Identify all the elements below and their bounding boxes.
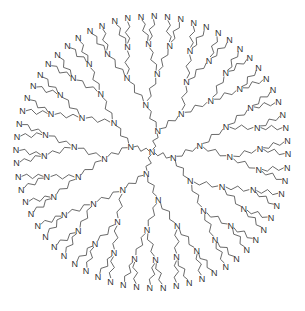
bond-chain	[110, 57, 125, 76]
nitrogen-atom-label: N	[270, 85, 277, 95]
bond-chain	[116, 24, 126, 44]
nitrogen-atom-label: N	[253, 235, 260, 245]
nitrogen-atom-label: N	[190, 18, 197, 28]
bond-chain	[77, 80, 98, 92]
bond-chain	[190, 26, 195, 48]
bond-chain	[24, 178, 44, 188]
nitrogen-atom-label: N	[145, 39, 152, 49]
bond-chain	[48, 218, 62, 234]
bond-chain	[161, 116, 179, 129]
nitrogen-atom-label: N	[206, 56, 213, 66]
bond-chain	[26, 109, 48, 114]
nitrogen-atom-label: N	[186, 278, 193, 288]
nitrogen-atom-label: N	[196, 141, 203, 151]
nitrogen-atom-label: N	[203, 22, 210, 32]
bond-chain	[262, 171, 282, 180]
nitrogen-atom-label: N	[41, 151, 48, 161]
bond-chain	[149, 19, 155, 40]
nitrogen-atom-label: N	[247, 103, 254, 113]
nitrogen-atom-label: N	[83, 266, 90, 276]
bond-chain	[133, 262, 138, 284]
bond-chain	[55, 113, 79, 118]
bond-chain	[22, 125, 42, 134]
nitrogen-atom-label: N	[44, 172, 51, 182]
bond-chain	[260, 116, 280, 126]
nitrogen-atom-label: N	[241, 204, 248, 214]
bond-chain	[263, 149, 284, 155]
bond-chain	[216, 243, 224, 263]
nitrogen-atom-label: N	[207, 96, 214, 106]
bond-chain	[263, 142, 284, 149]
nitrogen-atom-label: N	[16, 119, 23, 129]
bond-chain	[166, 20, 171, 42]
nitrogen-atom-label: N	[97, 89, 104, 99]
nitrogen-atom-label: N	[114, 217, 121, 227]
nitrogen-atom-label: N	[101, 154, 108, 164]
bond-chain	[228, 51, 239, 70]
nitrogen-atom-label: N	[61, 251, 68, 261]
nitrogen-atom-label: N	[15, 172, 22, 182]
nitrogen-atom-label: N	[149, 147, 156, 157]
bond-chain	[80, 207, 92, 228]
nitrogen-atom-label: N	[282, 176, 289, 186]
nitrogen-atom-label: N	[228, 221, 235, 231]
nitrogen-atom-label: N	[30, 81, 37, 91]
bond-chain	[48, 147, 71, 154]
bond-chain	[186, 55, 191, 79]
nitrogen-atom-label: N	[143, 100, 150, 110]
bond-chain	[29, 196, 50, 201]
bond-chain	[108, 148, 128, 157]
nitrogen-atom-label: N	[22, 197, 29, 207]
nitrogen-atom-label: N	[75, 172, 82, 182]
nitrogen-atom-label: N	[283, 123, 290, 133]
nitrogen-atom-label: N	[124, 73, 131, 83]
bond-chain	[34, 199, 51, 212]
nitrogen-atom-label: N	[223, 68, 230, 78]
nitrogen-atom-label: N	[255, 63, 261, 73]
bond-chain	[189, 63, 206, 80]
nitrogen-atom-label: N	[42, 130, 49, 140]
nitrogen-atom-label: N	[257, 144, 264, 154]
nitrogen-atom-label: N	[278, 189, 285, 199]
bond-chain	[192, 30, 204, 48]
nitrogen-atom-label: N	[211, 268, 218, 278]
bond-chain	[125, 262, 134, 282]
bond-chain	[247, 210, 268, 217]
bond-chain	[161, 203, 175, 223]
bond-chain	[133, 146, 149, 151]
nitrogen-atom-label: N	[187, 176, 194, 186]
bond-chain	[233, 150, 256, 157]
bond-chain	[148, 176, 157, 196]
bond-chain	[262, 166, 284, 171]
nitrogen-atom-label: N	[133, 282, 140, 292]
bond-chain	[176, 147, 196, 156]
bond-chain	[36, 87, 57, 94]
nitrogen-atom-label: N	[64, 41, 71, 51]
nitrogen-atom-label: N	[212, 235, 219, 245]
bond-chain	[205, 214, 214, 236]
bond-chain	[113, 226, 118, 250]
bond-chain	[147, 78, 156, 101]
nitrogen-atom-label: N	[99, 21, 106, 31]
bond-chain	[142, 20, 149, 41]
bond-chain	[225, 189, 242, 206]
bond-chain	[196, 254, 201, 275]
nitrogen-atom-label: N	[183, 77, 190, 87]
nitrogen-atom-label: N	[13, 158, 19, 168]
nitrogen-atom-label: N	[274, 201, 281, 211]
nitrogen-atom-label: N	[143, 169, 150, 179]
nitrogen-atom-label: N	[284, 163, 291, 173]
nitrogen-atom-label: N	[28, 209, 35, 219]
nitrogen-atom-label: N	[128, 142, 135, 152]
nitrogen-atom-label: N	[37, 70, 44, 80]
nitrogen-atom-label: N	[261, 225, 268, 235]
bond-chain	[256, 192, 274, 204]
nitrogen-atom-label: N	[111, 248, 118, 258]
bond-chain	[98, 225, 115, 242]
nitrogen-atom-label: N	[35, 221, 42, 231]
nitrogen-atom-label: N	[152, 255, 159, 265]
bond-chain	[155, 153, 171, 158]
nitrogen-atom-label: N	[13, 145, 19, 155]
bond-chain	[68, 205, 90, 214]
bond-chain	[102, 97, 112, 119]
